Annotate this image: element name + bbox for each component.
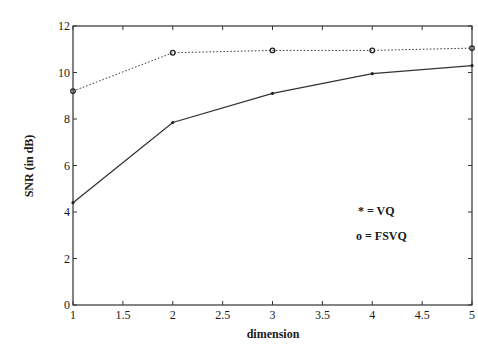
y-tick-label: 4 [64, 205, 70, 219]
x-tick-label: 5 [469, 308, 475, 322]
legend: * = VQ o = FSVQ [356, 204, 407, 243]
circle-marker-icon [170, 50, 175, 55]
star-marker-icon [171, 121, 174, 124]
legend-entry-fsvq: o = FSVQ [356, 229, 407, 243]
y-tick-label: 0 [64, 298, 70, 312]
x-tick-label: 2 [170, 308, 176, 322]
x-tick-label: 3 [270, 308, 276, 322]
y-tick-label: 6 [64, 159, 70, 173]
series-vq [71, 64, 473, 204]
star-marker-icon [470, 64, 473, 67]
x-tick-label: 4.5 [415, 308, 430, 322]
legend-entry-vq: * = VQ [358, 204, 395, 218]
star-marker-icon [371, 72, 374, 75]
y-tick-label: 10 [58, 66, 70, 80]
star-marker-icon [71, 201, 74, 204]
x-tick-label: 3.5 [315, 308, 330, 322]
x-tick-label: 4 [369, 308, 375, 322]
x-tick-label: 1.5 [115, 308, 130, 322]
y-axis-label: SNR (in dB) [22, 135, 36, 198]
x-axis-label: dimension [247, 327, 300, 341]
data-series [71, 46, 475, 205]
x-tick-label: 2.5 [215, 308, 230, 322]
y-tick-label: 12 [58, 19, 70, 33]
series-fsvq [71, 46, 475, 94]
snr-line-chart: 11.522.533.544.55 024681012 dimension SN… [0, 0, 478, 361]
x-tick-label: 1 [70, 308, 76, 322]
star-marker-icon [271, 92, 274, 95]
y-tick-label: 2 [64, 252, 70, 266]
y-tick-label: 8 [64, 112, 70, 126]
